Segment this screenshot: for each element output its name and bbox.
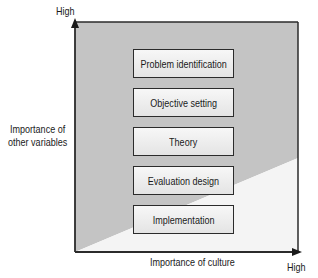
- stage-label: Theory: [169, 136, 197, 148]
- culture-importance-diagram: High Importance of other variables Impor…: [0, 0, 318, 278]
- stage-box-objective-setting: Objective setting: [133, 88, 234, 117]
- stage-label: Problem identification: [140, 58, 226, 70]
- y-axis-high-label: High: [56, 5, 75, 18]
- y-axis-title: Importance of other variables: [4, 123, 71, 149]
- stage-box-evaluation-design: Evaluation design: [133, 166, 234, 195]
- stage-box-implementation: Implementation: [133, 205, 234, 234]
- stage-box-problem-identification: Problem identification: [133, 49, 234, 78]
- stage-label: Evaluation design: [148, 175, 219, 187]
- y-axis-title-line2: other variables: [4, 136, 71, 149]
- x-axis-high-label: High: [287, 261, 306, 274]
- stage-label: Implementation: [153, 214, 215, 226]
- stage-box-theory: Theory: [133, 127, 234, 156]
- stage-label: Objective setting: [150, 97, 217, 109]
- y-axis-title-line1: Importance of: [4, 123, 71, 136]
- x-axis-title: Importance of culture: [150, 256, 235, 269]
